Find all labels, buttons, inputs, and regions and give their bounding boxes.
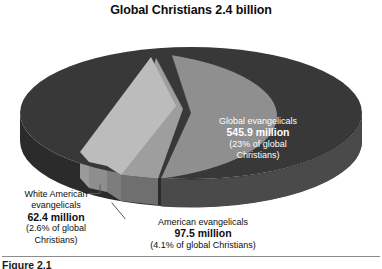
callout-american-evangelicals-amount: 97.5 million	[118, 228, 288, 239]
figure-container: Global Christians 2.4 billion G	[0, 0, 382, 269]
callout-global-evangelicals-line4: Christians)	[196, 150, 320, 161]
callout-global-evangelicals-line3: (23% of global	[196, 139, 320, 150]
callout-american-evangelicals: American evangelicals 97.5 million (4.1%…	[118, 217, 288, 251]
callout-white-american-evangelicals: White American evangelicals 62.4 million…	[4, 189, 108, 246]
callout-white-american-evangelicals-line4: (2.6% of global	[4, 223, 108, 234]
callout-white-american-evangelicals-line1: White American	[4, 189, 108, 200]
callout-american-evangelicals-line3: (4.1% of global Christians)	[118, 240, 288, 251]
callout-global-evangelicals: Global evangelicals 545.9 million (23% o…	[196, 116, 320, 162]
figure-caption: Figure 2.1	[2, 259, 52, 269]
callout-global-evangelicals-amount: 545.9 million	[196, 127, 320, 138]
slice-side-american-evangelicals	[121, 175, 158, 205]
figure-divider	[2, 256, 380, 257]
callout-white-american-evangelicals-amount: 62.4 million	[4, 212, 108, 223]
callout-white-american-evangelicals-line5: Christians)	[4, 235, 108, 246]
